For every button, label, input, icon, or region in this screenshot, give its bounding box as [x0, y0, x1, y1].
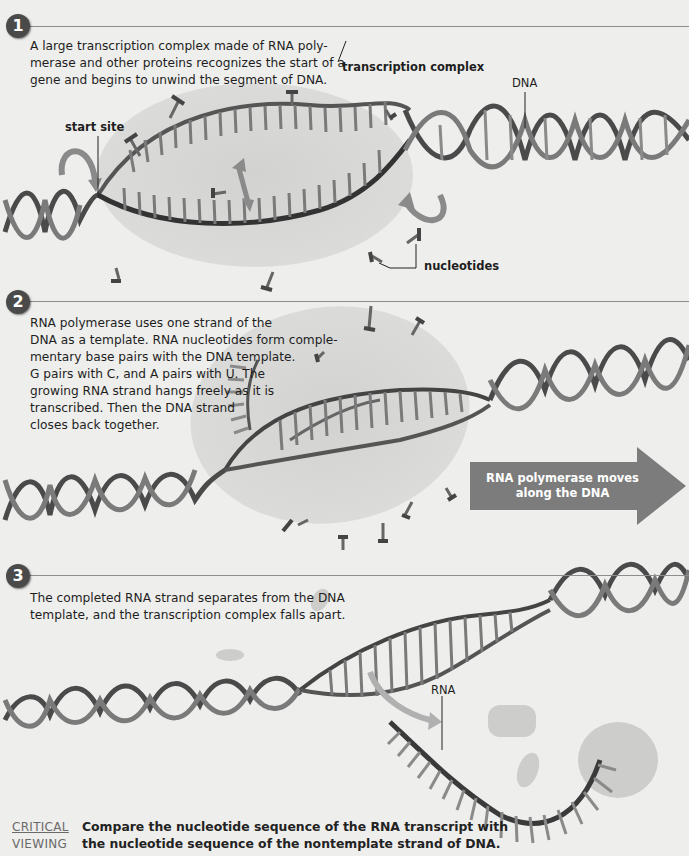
step1-text-line: gene and begins to unwind the segment of… [30, 72, 345, 89]
step1-text-line: merase and other proteins recognizes the… [30, 55, 345, 72]
step2-text-line: mentary base pairs with the DNA template… [30, 349, 338, 366]
step3-divider [28, 575, 689, 576]
label-nucleotides: nucleotides [424, 259, 499, 273]
critical-viewing-question-1: Compare the nucleotide sequence of the R… [82, 819, 508, 834]
step2-text-line: RNA polymerase uses one strand of the [30, 315, 338, 332]
step-number-2: 2 [6, 290, 30, 314]
step2-text-line: transcribed. Then the DNA strand [30, 400, 338, 417]
step-number-3: 3 [6, 564, 30, 588]
label-dna: DNA [512, 76, 537, 90]
critical-viewing-label-2: VIEWING [12, 837, 67, 851]
step2-text-line: G pairs with C, and A pairs with U. The [30, 366, 338, 383]
label-start-site: start site [65, 120, 124, 134]
label-transcription-complex: transcription complex [342, 60, 484, 74]
critical-viewing-label-1: CRITICAL [12, 820, 69, 834]
step-number-1: 1 [6, 14, 30, 38]
dna-helix-right-3 [550, 564, 689, 615]
dna-helix-left-2 [5, 470, 225, 520]
arrow-banner-text: RNA polymerase moves along the DNA [470, 471, 655, 501]
dna-helix-left [5, 191, 98, 238]
arrow-banner-line: along the DNA [470, 486, 655, 501]
step2-divider [28, 301, 689, 302]
step2-text-line: DNA as a template. RNA nucleotides form … [30, 332, 338, 349]
unwind-arrow-left [62, 151, 95, 180]
step3-text-line: template, and the transcription complex … [30, 607, 345, 624]
step3-description: The completed RNA strand separates from … [30, 590, 345, 624]
step2-text-line: closes back together. [30, 417, 338, 434]
step1-divider [28, 26, 689, 27]
step2-description: RNA polymerase uses one strand of the DN… [30, 315, 338, 434]
step1-description: A large transcription complex made of RN… [30, 38, 345, 89]
dna-helix-left-3 [5, 678, 300, 726]
label-rna: RNA [431, 683, 455, 697]
arrow-banner-line: RNA polymerase moves [470, 471, 655, 486]
step2-text-line: growing RNA strand hangs freely as it is [30, 383, 338, 400]
dna-helix-right-2 [490, 340, 689, 409]
critical-viewing-question-2: the nucleotide sequence of the nontempla… [82, 836, 501, 851]
step3-text-line: The completed RNA strand separates from … [30, 590, 345, 607]
step1-text-line: A large transcription complex made of RN… [30, 38, 345, 55]
